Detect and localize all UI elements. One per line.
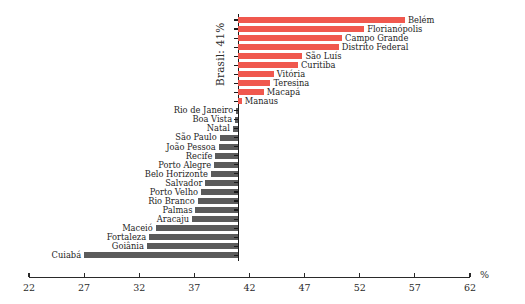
bar[interactable] (238, 71, 273, 77)
bar-label: Salvador (0, 179, 202, 187)
bar-label: Rio Branco (0, 197, 195, 205)
row-tick (234, 191, 238, 192)
bar[interactable] (238, 53, 302, 59)
x-axis-tick-label: 42 (243, 282, 255, 293)
bar[interactable] (238, 98, 241, 104)
bar[interactable] (238, 89, 263, 95)
bar-label: Palmas (0, 206, 192, 214)
row-tick (234, 146, 238, 147)
row-tick (234, 65, 238, 66)
bar-label: Boa Vista (0, 115, 232, 123)
x-axis-tick (414, 273, 415, 277)
x-axis-tick (194, 273, 195, 277)
bar-label: Aracaju (0, 215, 189, 223)
row-tick (234, 83, 238, 84)
row-tick (234, 155, 238, 156)
bar[interactable] (198, 198, 239, 204)
row-tick (234, 255, 238, 256)
row-tick (234, 246, 238, 247)
bar-label: Vitória (277, 70, 305, 78)
bar-label: Cuiabá (0, 251, 81, 259)
x-axis-tick-label: 22 (23, 282, 35, 293)
bar[interactable] (147, 243, 239, 249)
y-axis-title: Brasil: 41% (214, 22, 226, 86)
bar[interactable] (238, 17, 404, 23)
bar-label: Maceió (0, 224, 153, 232)
bar-label: Fortaleza (0, 233, 146, 241)
x-axis-tick-label: 62 (464, 282, 476, 293)
bar-label: Campo Grande (345, 34, 408, 42)
row-tick (234, 47, 238, 48)
row-tick (234, 182, 238, 183)
bar-label: Teresina (273, 79, 309, 87)
row-tick (234, 128, 238, 129)
x-axis-tick (84, 273, 85, 277)
bar[interactable] (192, 216, 238, 222)
bar[interactable] (238, 62, 298, 68)
bar[interactable] (238, 80, 270, 86)
x-axis-tick (304, 273, 305, 277)
row-tick (234, 74, 238, 75)
bar[interactable] (156, 225, 239, 231)
row-tick (234, 173, 238, 174)
x-axis-tick-label: 57 (409, 282, 421, 293)
x-axis-tick-label: 47 (299, 282, 311, 293)
bar-label: Macapá (267, 88, 300, 96)
bar-label: Goiânia (0, 242, 144, 250)
row-tick (234, 219, 238, 220)
x-axis-tick-label: 52 (354, 282, 366, 293)
bar-label: João Pessoa (0, 143, 216, 151)
row-tick (234, 228, 238, 229)
row-tick (234, 209, 238, 210)
bar-label: Curitiba (301, 61, 336, 69)
bar[interactable] (238, 26, 364, 32)
x-axis-tick (469, 273, 470, 277)
x-axis-tick (28, 273, 29, 277)
bar-label: Natal (0, 124, 230, 132)
x-axis-unit-label: % (480, 269, 489, 280)
row-tick (234, 164, 238, 165)
x-axis-tick (249, 273, 250, 277)
x-axis-tick-label: 32 (133, 282, 145, 293)
bar-label: Recife (0, 152, 212, 160)
x-axis-line (29, 277, 470, 278)
row-tick (234, 200, 238, 201)
bar[interactable] (238, 44, 338, 50)
bar[interactable] (201, 189, 238, 195)
row-tick (234, 56, 238, 57)
row-tick (234, 237, 238, 238)
row-tick (234, 19, 238, 20)
row-tick (234, 110, 238, 111)
bar[interactable] (238, 35, 342, 41)
bar[interactable] (149, 234, 238, 240)
plot-area: Brasil: 41%BelémFlorianópolisCampo Grand… (0, 0, 525, 304)
row-tick (234, 101, 238, 102)
bar-label: Rio de Janeiro (0, 106, 233, 114)
bar-label: Belém (408, 16, 434, 24)
bar-label: Manaus (245, 97, 278, 105)
row-tick (234, 119, 238, 120)
bar[interactable] (84, 252, 238, 258)
row-tick (234, 38, 238, 39)
x-axis-tick (139, 273, 140, 277)
bar-label: Florianópolis (367, 25, 422, 33)
row-tick (234, 137, 238, 138)
bar-label: Porto Velho (0, 188, 198, 196)
bar-label: São Paulo (0, 133, 217, 141)
bar-label: São Luís (305, 52, 341, 60)
x-axis-tick-label: 27 (78, 282, 90, 293)
row-tick (234, 92, 238, 93)
x-axis-tick-label: 37 (188, 282, 200, 293)
bar-label: Distrito Federal (342, 43, 408, 51)
chart-container: Brasil: 41%BelémFlorianópolisCampo Grand… (0, 0, 525, 304)
row-tick (234, 28, 238, 29)
bar-label: Belo Horizonte (0, 170, 208, 178)
bar-label: Porto Alegre (0, 161, 211, 169)
x-axis-tick (359, 273, 360, 277)
bar[interactable] (195, 207, 238, 213)
